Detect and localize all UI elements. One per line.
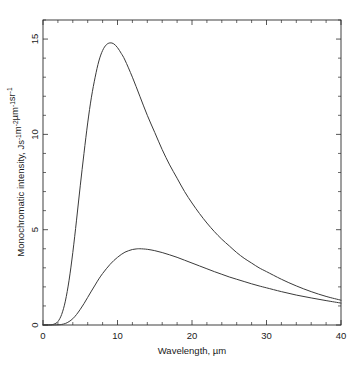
x-tick-label: 10 bbox=[112, 330, 123, 341]
chart-background bbox=[0, 0, 361, 366]
x-axis-label: Wavelength, µm bbox=[158, 345, 227, 356]
x-tick-label: 30 bbox=[261, 330, 272, 341]
y-axis-label-main: Monochromatic intensity, bbox=[15, 150, 26, 257]
y-tick-label: 0 bbox=[29, 322, 40, 327]
y-tick-label: 15 bbox=[29, 34, 40, 45]
chart-figure: 010203040 051015 Wavelength, µm Monochro… bbox=[0, 0, 361, 366]
x-tick-label: 40 bbox=[336, 330, 347, 341]
blackbody-spectrum-chart: 010203040 051015 Wavelength, µm Monochro… bbox=[0, 0, 361, 366]
x-tick-label: 0 bbox=[40, 330, 45, 341]
y-tick-label: 5 bbox=[29, 227, 40, 232]
x-tick-label: 20 bbox=[187, 330, 198, 341]
y-tick-label: 10 bbox=[29, 129, 40, 140]
